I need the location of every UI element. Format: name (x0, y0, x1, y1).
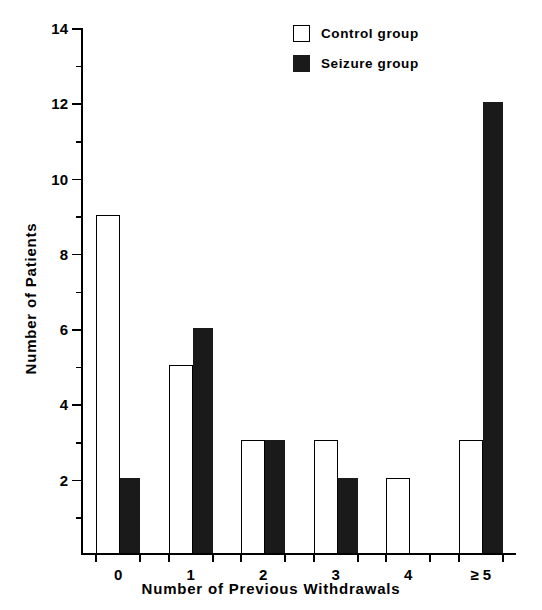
plot-area: 2468101214 01234≥ 5 (81, 28, 516, 555)
y-tick-label: 14 (51, 20, 68, 37)
y-tick-label: 10 (51, 170, 68, 187)
y-tick-minor (76, 66, 81, 68)
x-tick (240, 555, 242, 562)
y-tick-major (72, 103, 81, 105)
x-tick (168, 555, 170, 562)
x-tick (502, 555, 504, 562)
bar-control-group (169, 365, 193, 553)
y-tick-label: 6 (60, 321, 68, 338)
x-tick (357, 555, 359, 562)
bar-control-group (314, 440, 338, 553)
y-tick-major (72, 329, 81, 331)
x-tick (313, 555, 315, 562)
y-tick-label: 2 (60, 471, 68, 488)
x-tick (139, 555, 141, 562)
y-tick-major (72, 28, 81, 30)
y-tick-major (72, 480, 81, 482)
y-tick-major (72, 179, 81, 181)
bar-chart-figure: Control group Seizure group 2468101214 0… (0, 0, 542, 610)
x-tick (212, 555, 214, 562)
bar-seizure-group (338, 478, 358, 553)
y-tick-minor (76, 442, 81, 444)
x-tick (458, 555, 460, 562)
x-tick (284, 555, 286, 562)
bar-control-group (96, 215, 120, 554)
y-tick-minor (76, 216, 81, 218)
y-tick-minor (76, 367, 81, 369)
y-tick-label: 12 (51, 95, 68, 112)
bar-control-group (459, 440, 483, 553)
y-axis-title: Number of Patients (22, 35, 39, 563)
y-tick-major (72, 404, 81, 406)
x-tick (95, 555, 97, 562)
bar-seizure-group (265, 440, 285, 553)
x-tick (429, 555, 431, 562)
y-tick-label: 4 (60, 396, 68, 413)
y-tick-minor (76, 517, 81, 519)
y-tick-major (72, 254, 81, 256)
y-axis-line (81, 28, 83, 555)
bar-seizure-group (120, 478, 140, 553)
y-tick-minor (76, 292, 81, 294)
x-axis-line (81, 553, 516, 555)
y-tick-label: 8 (60, 245, 68, 262)
x-axis-title: Number of Previous Withdrawals (0, 580, 542, 597)
bar-seizure-group (483, 102, 503, 554)
x-tick (385, 555, 387, 562)
bar-control-group (241, 440, 265, 553)
bar-control-group (386, 478, 410, 553)
y-tick-minor (76, 141, 81, 143)
bar-seizure-group (193, 328, 213, 554)
